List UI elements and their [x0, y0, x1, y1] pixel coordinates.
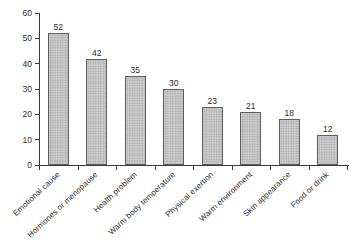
y-axis-tick-label: 50 [6, 33, 32, 43]
bar-health-problem [125, 76, 146, 165]
y-axis-tick-label: 0 [6, 160, 32, 170]
bar-emotional-cause [48, 33, 69, 165]
bar-chart-figure: 010203040506052Emotional cause42Hormones… [0, 0, 357, 252]
bar-value-label: 35 [120, 65, 150, 75]
bar-physical-exertion [202, 107, 223, 165]
bar-value-label: 30 [159, 78, 189, 88]
y-axis-tick-label: 40 [6, 59, 32, 69]
bar-food-or-drink [317, 135, 338, 165]
bar-value-label: 12 [313, 124, 343, 134]
x-axis-category-label: Hormones or menopause [26, 170, 100, 240]
bar-warm-body-temperature [163, 89, 184, 165]
y-axis-tick-label: 30 [6, 84, 32, 94]
x-axis-tick [155, 166, 156, 170]
bar-warm-environment [240, 112, 261, 165]
bar-value-label: 42 [82, 48, 112, 58]
x-axis-tick [116, 166, 117, 170]
bar-value-label: 21 [236, 101, 266, 111]
x-axis-tick [270, 166, 271, 170]
x-axis-tick [78, 166, 79, 170]
bar-hormones-or-menopause [86, 59, 107, 165]
x-axis-tick [347, 166, 348, 170]
x-axis-line [39, 165, 349, 166]
x-axis-tick [39, 166, 40, 170]
x-axis-category-label: Warm body temperature [106, 170, 177, 237]
bar-value-label: 18 [274, 108, 304, 118]
y-axis-line [39, 13, 40, 166]
y-axis-tick [35, 139, 39, 140]
bar-value-label: 23 [197, 96, 227, 106]
x-axis-tick [193, 166, 194, 170]
y-axis-tick [35, 38, 39, 39]
x-axis-tick [309, 166, 310, 170]
y-axis-tick-label: 60 [6, 8, 32, 18]
plot-area: 010203040506052Emotional cause42Hormones… [0, 0, 357, 252]
bar-skin-appearance [279, 119, 300, 165]
y-axis-tick [35, 89, 39, 90]
y-axis-tick [35, 63, 39, 64]
y-axis-tick [35, 13, 39, 14]
x-axis-category-label: Food or drink [289, 170, 331, 210]
bar-value-label: 52 [43, 22, 73, 32]
y-axis-tick [35, 114, 39, 115]
y-axis-tick-label: 10 [6, 135, 32, 145]
y-axis-tick-label: 20 [6, 109, 32, 119]
x-axis-tick [232, 166, 233, 170]
